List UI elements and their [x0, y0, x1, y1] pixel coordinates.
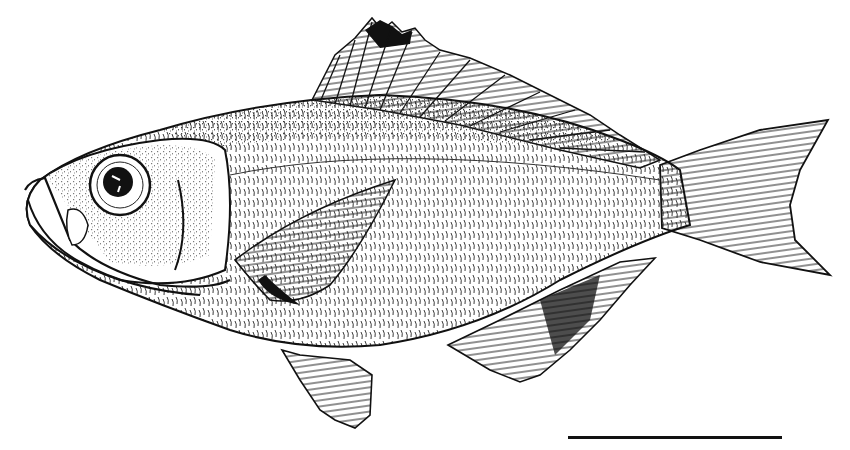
scale-bar	[568, 436, 782, 439]
fish-illustration	[0, 0, 850, 450]
pelvic-fin	[282, 350, 372, 428]
eye	[90, 155, 150, 215]
